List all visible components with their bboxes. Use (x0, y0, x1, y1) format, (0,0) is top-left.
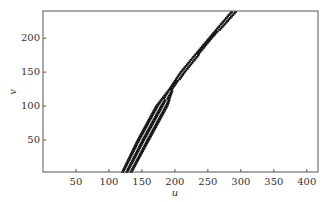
x-tick-label: 100 (99, 176, 118, 187)
y-tick-label: 100 (21, 100, 40, 111)
x-tick-label: 400 (297, 176, 316, 187)
scatter-chart: 50100150200250300350400 50100150200 u v (0, 0, 327, 202)
plot-frame (43, 11, 318, 172)
x-tick-label: 50 (70, 176, 83, 187)
x-tick-label: 300 (231, 176, 250, 187)
x-tick-label: 350 (264, 176, 283, 187)
y-tick-label: 200 (21, 32, 40, 43)
data-points (121, 11, 237, 173)
x-axis-label: u (172, 187, 178, 198)
x-tick-label: 150 (132, 176, 151, 187)
y-tick-label: 50 (27, 134, 40, 145)
x-tick-label: 250 (198, 176, 217, 187)
y-axis-ticks: 50100150200 (21, 32, 46, 145)
x-tick-label: 200 (165, 176, 184, 187)
y-tick-label: 150 (21, 66, 40, 77)
y-axis-label: v (7, 89, 18, 95)
